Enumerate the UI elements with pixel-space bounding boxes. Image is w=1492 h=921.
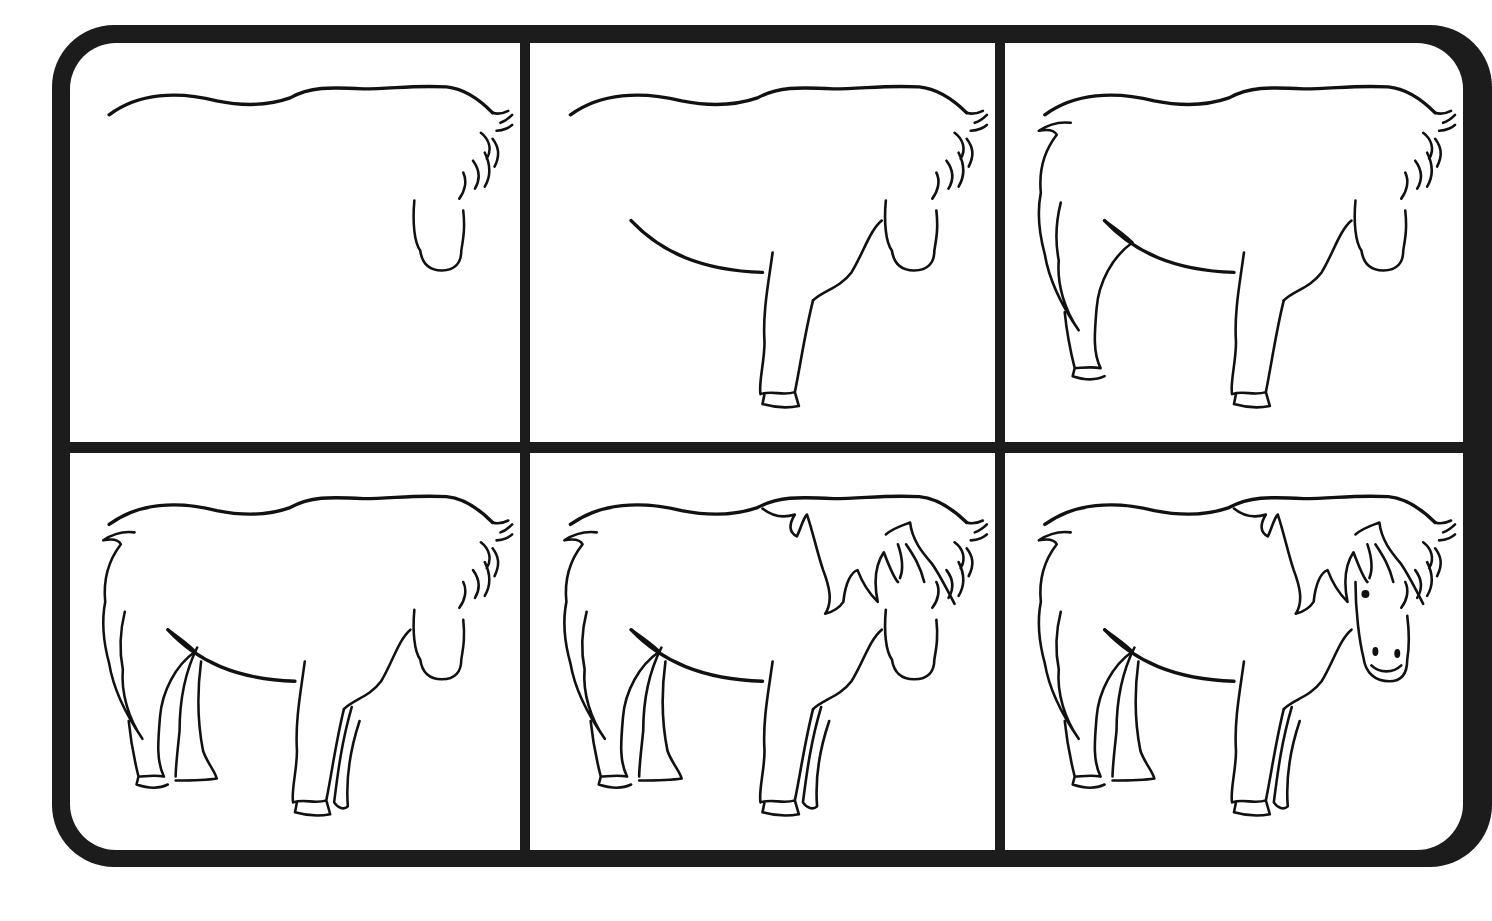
nostril-left [1372,647,1378,656]
neck-mane-tufts [1401,111,1455,199]
neck-mane-tufts [1401,520,1455,607]
front-leg-near [1232,252,1284,407]
neck-mane-tufts [459,520,512,607]
mane-long [763,509,898,614]
muzzle-outline [885,610,937,679]
step-panel-3 [1005,43,1463,442]
step-panel-5 [530,453,995,850]
belly-line [1105,221,1234,273]
pony-drawing [1005,453,1463,850]
mane-long [1234,509,1367,614]
belly-line [631,221,762,273]
pony-drawing [530,43,995,442]
back-line [109,496,492,524]
eye [1361,590,1369,598]
neck-mane-tufts [459,111,512,199]
neck-mane-tufts [932,111,987,199]
chest-line [813,630,882,709]
muzzle-outline [414,610,464,679]
front-leg-far [334,707,359,808]
back-line [1045,86,1435,114]
tail [564,532,605,739]
front-leg-far [803,707,829,808]
step-panel-2 [530,43,995,442]
hind-leg-near [129,630,196,788]
nostril-right [1394,649,1400,658]
tail [103,532,142,739]
step-panel-1 [70,43,520,442]
hind-leg-near [591,630,660,788]
back-line [1045,496,1435,524]
muzzle-outline [414,201,464,271]
mouth [1371,665,1401,671]
front-leg-near [760,252,813,407]
tail [1039,122,1079,330]
pony-drawing [70,43,520,442]
back-line [109,86,492,114]
step-panel-4 [70,453,520,850]
hind-leg-far [1113,648,1155,781]
chest-line [813,221,882,301]
hind-leg-far [176,648,217,781]
step-panel-6 [1005,453,1463,850]
neck-mane-tufts [932,520,987,607]
pony-drawing [530,453,995,850]
hind-leg-near [1065,630,1133,788]
muzzle-outline [885,201,937,271]
back-line [570,496,966,524]
hind-leg-near [1065,221,1133,380]
hind-leg-far [639,648,681,781]
chest-line [1284,221,1352,301]
back-line [570,86,966,114]
chest-line [344,630,411,709]
muzzle-outline [1355,201,1406,271]
forelock [886,522,955,603]
pony-drawing [1005,43,1463,442]
front-leg-far [1274,707,1300,808]
chest-line [1284,630,1352,709]
pony-drawing [70,453,520,850]
tail [1039,532,1079,739]
